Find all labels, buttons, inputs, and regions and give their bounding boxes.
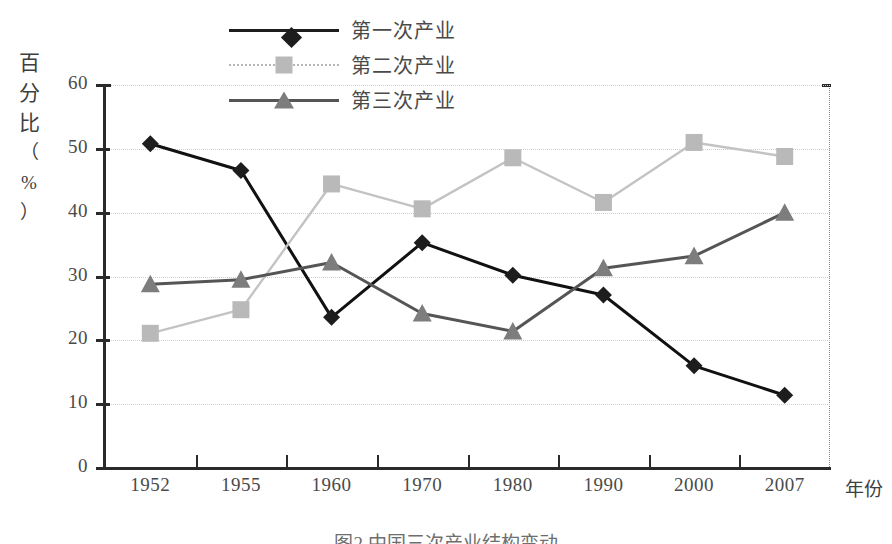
- data-point-2-1952: [142, 325, 159, 342]
- data-point-2-1990: [595, 194, 612, 211]
- x-axis-title: 年份: [845, 474, 883, 501]
- y-tick-50: [96, 148, 110, 151]
- legend-label-secondary: 第二次产业: [351, 50, 456, 79]
- x-tick-label-1952: 1952: [115, 474, 185, 496]
- y-axis-title-char-4: %: [14, 168, 44, 198]
- y-tick-label-40: 40: [48, 200, 88, 222]
- x-tick-5: [558, 455, 560, 468]
- data-point-1-1960: [323, 309, 340, 326]
- gridline-40: [105, 213, 830, 214]
- data-point-3-1955: [231, 270, 250, 288]
- plot-bottom-right-cap: [822, 467, 831, 470]
- y-axis-title: 百 分 比 （ % ）: [14, 48, 44, 228]
- legend-line-primary: [229, 20, 339, 40]
- y-tick-40: [96, 212, 110, 215]
- y-tick-label-20: 20: [48, 327, 88, 349]
- data-point-1-1990: [595, 287, 612, 304]
- data-point-1-2007: [776, 387, 793, 404]
- legend-item-secondary-industry[interactable]: 第二次产业: [229, 47, 529, 82]
- y-axis-title-char-5: ）: [14, 198, 44, 228]
- legend-line-secondary: [229, 55, 339, 75]
- x-tick-2: [286, 455, 288, 468]
- legend-item-primary-industry[interactable]: 第一次产业: [229, 12, 529, 47]
- gridline-50: [105, 149, 830, 150]
- series-line-1: [150, 144, 784, 396]
- y-axis-title-char-3: （: [14, 138, 44, 168]
- x-tick-4: [468, 455, 470, 468]
- y-tick-label-50: 50: [48, 136, 88, 158]
- data-point-2-1955: [232, 301, 249, 318]
- y-tick-10: [96, 403, 110, 406]
- y-axis-title-char-1: 分: [14, 78, 44, 108]
- data-point-2-1980: [504, 149, 521, 166]
- y-axis-title-char-2: 比: [14, 108, 44, 138]
- data-point-1-1955: [232, 162, 249, 179]
- triangle-marker-icon: [274, 91, 294, 108]
- x-tick-1: [196, 455, 198, 468]
- data-point-2-1970: [414, 200, 431, 217]
- series-1: [142, 135, 793, 404]
- data-point-1-1980: [504, 267, 521, 284]
- data-point-3-2000: [685, 247, 704, 265]
- data-point-3-1990: [594, 259, 613, 277]
- data-point-2-2007: [776, 148, 793, 165]
- chart-figure: 百 分 比 （ % ） 第一次产业 第二次产业 第三次产业: [0, 0, 892, 544]
- x-tick-label-1970: 1970: [387, 474, 457, 496]
- data-point-3-1970: [413, 304, 432, 322]
- x-tick-6: [649, 455, 651, 468]
- data-point-1-1970: [414, 234, 431, 251]
- x-tick-label-1980: 1980: [478, 474, 548, 496]
- x-tick-label-2007: 2007: [750, 474, 820, 496]
- x-tick-label-1955: 1955: [206, 474, 276, 496]
- y-tick-label-10: 10: [48, 391, 88, 413]
- legend-label-primary: 第一次产业: [351, 15, 456, 44]
- x-tick-7: [739, 455, 741, 468]
- gridline-10: [105, 404, 830, 405]
- x-tick-label-1990: 1990: [568, 474, 638, 496]
- square-marker-icon: [276, 56, 293, 73]
- x-tick-label-2000: 2000: [659, 474, 729, 496]
- y-tick-label-30: 30: [48, 264, 88, 286]
- gridline-60: [105, 85, 830, 86]
- series-line-3: [150, 213, 784, 332]
- figure-caption: 图2 中国三次产业结构变动: [0, 528, 892, 544]
- y-axis-title-char-0: 百: [14, 48, 44, 78]
- legend-line-tertiary: [229, 90, 339, 110]
- gridline-20: [105, 340, 830, 341]
- x-tick-label-1960: 1960: [297, 474, 367, 496]
- data-point-1-2000: [686, 357, 703, 374]
- x-tick-3: [377, 455, 379, 468]
- y-tick-30: [96, 276, 110, 279]
- y-tick-20: [96, 339, 110, 342]
- chart-legend: 第一次产业 第二次产业 第三次产业: [229, 12, 529, 117]
- series-2: [142, 134, 793, 342]
- series-line-2: [150, 142, 784, 333]
- legend-item-tertiary-industry[interactable]: 第三次产业: [229, 82, 529, 117]
- y-tick-60: [96, 84, 110, 87]
- data-point-3-1980: [503, 322, 522, 340]
- data-point-3-1960: [322, 253, 341, 271]
- y-tick-label-60: 60: [48, 72, 88, 94]
- gridline-30: [105, 277, 830, 278]
- y-tick-label-0: 0: [48, 455, 88, 477]
- y-tick-0: [96, 467, 110, 470]
- series-3: [141, 203, 794, 339]
- legend-label-tertiary: 第三次产业: [351, 85, 456, 114]
- data-point-2-1960: [323, 175, 340, 192]
